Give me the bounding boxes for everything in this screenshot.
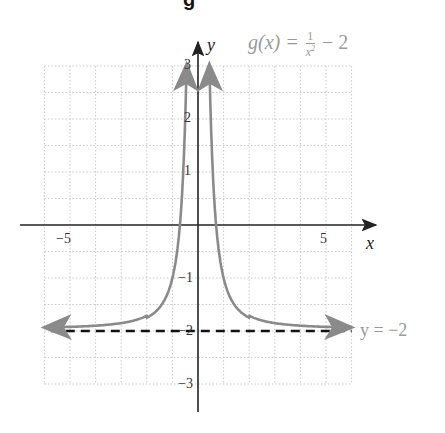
asymptote-label: y = −2	[360, 320, 407, 341]
plot-area	[0, 0, 445, 433]
curve-right-branch	[209, 66, 350, 328]
y-tick-label: −3	[178, 377, 193, 391]
y-tick-label: 2	[184, 111, 191, 125]
fraction-denominator: x2	[306, 44, 315, 58]
curve-left-branch	[46, 66, 187, 328]
y-tick-label: −1	[178, 271, 193, 285]
y-tick-label: 1	[184, 164, 191, 178]
x-axis-label: x	[366, 234, 374, 252]
graph-figure: g y x −5 5 3 2 1 −1 −2 −3 g(x) = 1 x2 − …	[0, 0, 445, 433]
function-rhs: − 2	[322, 31, 348, 53]
y-tick-label: 3	[184, 58, 191, 72]
y-tick-label: −2	[178, 324, 193, 338]
x-tick-label: −5	[56, 232, 71, 246]
y-axis-label: y	[207, 36, 215, 54]
x-tick-label: 5	[320, 232, 327, 246]
function-lhs: g(x) =	[248, 31, 299, 53]
function-label: g(x) = 1 x2 − 2	[248, 30, 348, 58]
fraction-numerator: 1	[306, 30, 315, 44]
fraction: 1 x2	[306, 30, 315, 58]
